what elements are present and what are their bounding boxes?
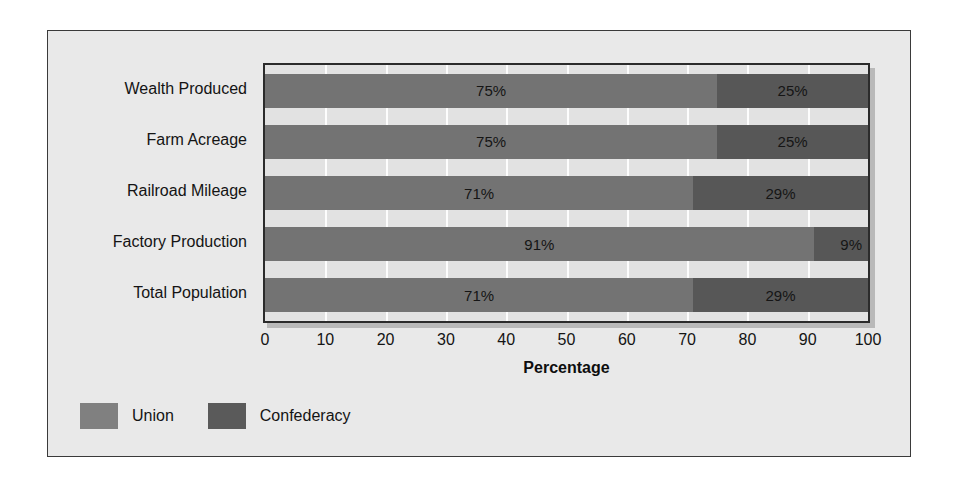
legend-label: Confederacy <box>260 407 351 425</box>
category-label: Factory Production <box>113 233 247 251</box>
legend-swatch-icon <box>208 403 246 429</box>
chart-card: 75%25%75%25%71%29%91%9%71%29% Wealth Pro… <box>47 30 911 457</box>
category-label: Railroad Mileage <box>127 182 247 200</box>
legend-swatch-icon <box>80 403 118 429</box>
bar-value-label-union: 71% <box>464 185 494 202</box>
x-tick-label: 30 <box>437 331 455 349</box>
bar-segment-union: 75% <box>265 74 717 108</box>
bar-segment-confederacy: 25% <box>717 74 868 108</box>
category-label: Farm Acreage <box>147 131 247 149</box>
bar-value-label-confederacy: 29% <box>766 287 796 304</box>
category-label: Total Population <box>133 284 247 302</box>
x-tick-label: 100 <box>855 331 882 349</box>
x-axis-tick-labels: 0102030405060708090100 <box>263 331 870 355</box>
bar-segment-union: 75% <box>265 125 717 159</box>
bar-row: 71%29% <box>265 176 868 210</box>
bar-segment-union: 71% <box>265 278 693 312</box>
x-tick-label: 40 <box>497 331 515 349</box>
bar-row: 71%29% <box>265 278 868 312</box>
bar-segment-confederacy: 25% <box>717 125 868 159</box>
x-tick-label: 10 <box>316 331 334 349</box>
x-tick-label: 20 <box>377 331 395 349</box>
category-label: Wealth Produced <box>125 80 247 98</box>
legend-label: Union <box>132 407 174 425</box>
bar-value-label-confederacy: 25% <box>778 133 808 150</box>
bar-row: 75%25% <box>265 125 868 159</box>
x-axis-title: Percentage <box>263 359 870 377</box>
bar-segment-union: 71% <box>265 176 693 210</box>
bar-row: 75%25% <box>265 74 868 108</box>
chart-page: 75%25%75%25%71%29%91%9%71%29% Wealth Pro… <box>0 0 960 486</box>
bar-value-label-union: 75% <box>476 82 506 99</box>
bar-value-label-union: 71% <box>464 287 494 304</box>
x-tick-label: 70 <box>678 331 696 349</box>
x-tick-label: 80 <box>738 331 756 349</box>
legend-item[interactable]: Union <box>80 403 174 429</box>
bar-segment-union: 91% <box>265 227 814 261</box>
legend-item[interactable]: Confederacy <box>208 403 351 429</box>
category-axis-labels: Wealth ProducedFarm AcreageRailroad Mile… <box>48 63 259 323</box>
bar-value-label-confederacy: 29% <box>766 185 796 202</box>
bar-segment-confederacy: 29% <box>693 278 868 312</box>
bar-segment-confederacy: 29% <box>693 176 868 210</box>
bar-series-group: 75%25%75%25%71%29%91%9%71%29% <box>265 65 868 321</box>
bar-segment-confederacy: 9% <box>814 227 868 261</box>
chart-legend: UnionConfederacy <box>80 403 385 429</box>
x-tick-label: 50 <box>558 331 576 349</box>
bar-row: 91%9% <box>265 227 868 261</box>
x-tick-label: 0 <box>261 331 270 349</box>
bar-value-label-union: 91% <box>524 236 554 253</box>
x-tick-label: 90 <box>799 331 817 349</box>
bar-value-label-confederacy: 25% <box>778 82 808 99</box>
x-tick-label: 60 <box>618 331 636 349</box>
bar-value-label-union: 75% <box>476 133 506 150</box>
plot-area: 75%25%75%25%71%29%91%9%71%29% <box>263 63 870 323</box>
bar-value-label-confederacy: 9% <box>840 236 862 253</box>
